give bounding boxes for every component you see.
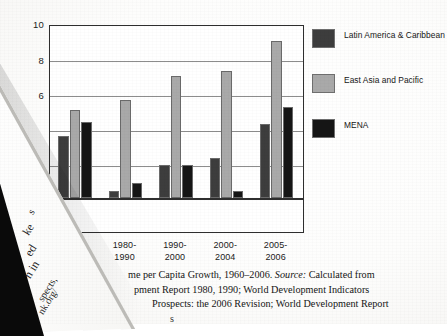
- caption-text: me per Capita Growth, 1960–2006.: [128, 269, 275, 280]
- x-tick-line1: 2005-: [250, 240, 300, 252]
- plot-area: [49, 25, 304, 233]
- bar: [120, 100, 131, 198]
- caption-line-2: pment Report 1980, 1990; World Developme…: [128, 283, 444, 298]
- zero-baseline: [50, 198, 303, 200]
- bar: [81, 122, 92, 198]
- bar: [159, 165, 170, 198]
- bar: [58, 136, 69, 198]
- bar: [210, 158, 221, 198]
- bar: [260, 124, 271, 198]
- x-tick-line1: 1980-: [99, 240, 149, 252]
- bar: [221, 71, 232, 198]
- bar: [182, 165, 193, 198]
- x-tick-label: 2005-2006: [250, 240, 300, 263]
- legend-swatch-icon: [312, 74, 335, 93]
- legend-item-latin-america: Latin America & Caribbean: [312, 27, 444, 72]
- x-tick-line2: 2000: [150, 252, 200, 264]
- y-tick-10: 10: [14, 19, 44, 30]
- bar: [171, 76, 182, 198]
- gridline-8: [50, 61, 303, 62]
- legend-label: Latin America & Caribbean: [344, 30, 445, 40]
- bar: [283, 107, 294, 198]
- legend-label: MENA: [344, 120, 368, 130]
- y-tick-6: 6: [14, 90, 44, 101]
- legend-swatch-icon: [312, 119, 335, 138]
- x-tick-line2: 1990: [99, 252, 149, 264]
- y-tick-8: 8: [14, 55, 44, 66]
- legend-label: East Asia and Pacific: [344, 75, 423, 85]
- x-tick-line2: 2004: [200, 252, 250, 264]
- x-tick-label: 2000-2004: [200, 240, 250, 263]
- x-tick-line1: 2000-: [200, 240, 250, 252]
- bar: [271, 41, 282, 198]
- x-tick-label: 1990-2000: [150, 240, 200, 263]
- chart-legend: Latin America & Caribbean East Asia and …: [312, 27, 444, 162]
- legend-swatch-icon: [312, 29, 335, 48]
- caption-line-4: s: [128, 312, 444, 327]
- x-tick-line2: 2006: [250, 252, 300, 264]
- legend-item-east-asia: East Asia and Pacific: [312, 72, 444, 117]
- bar: [109, 191, 120, 198]
- bar: [70, 110, 81, 198]
- x-tick-label: 1980-1990: [99, 240, 149, 263]
- caption-line-3: Prospects: the 2006 Revision; World Deve…: [128, 297, 444, 312]
- caption-text: Calculated from: [306, 269, 374, 280]
- caption-source-label: Source:: [275, 269, 306, 280]
- bar: [233, 191, 244, 198]
- bar: [132, 183, 143, 198]
- figure-caption: me per Capita Growth, 1960–2006. Source:…: [128, 268, 444, 326]
- caption-line-1: me per Capita Growth, 1960–2006. Source:…: [128, 268, 444, 283]
- x-tick-line1: 1990-: [150, 240, 200, 252]
- legend-item-mena: MENA: [312, 117, 444, 162]
